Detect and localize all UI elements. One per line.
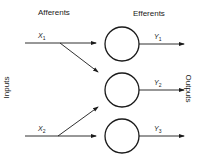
input-x1-label: X1 [38, 32, 45, 41]
network-diagram [0, 0, 203, 163]
input-x2-branch-arrow [58, 107, 98, 136]
output-y2-label: Y2 [154, 79, 161, 88]
output-y3-label: Y3 [154, 125, 161, 134]
input-x1-branch-arrow [60, 43, 98, 72]
output-y1-label: Y1 [154, 33, 161, 42]
neuron-node-2 [105, 73, 139, 107]
neuron-node-1 [105, 27, 139, 61]
outputs-label: Outputs [184, 74, 193, 102]
inputs-label: Inputs [2, 77, 11, 99]
neuron-node-3 [105, 119, 139, 153]
input-x2-label: X2 [38, 125, 45, 134]
afferents-header: Afferents [38, 8, 70, 17]
efferents-header: Efferents [133, 9, 165, 18]
